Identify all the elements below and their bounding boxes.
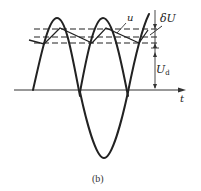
time-axis xyxy=(14,88,186,93)
waveform-diagram: u δU Ud t (b) xyxy=(0,0,201,191)
ud-label: Ud xyxy=(156,63,170,77)
t-axis-label: t xyxy=(180,93,185,104)
figure-caption: (b) xyxy=(92,173,104,185)
delta-u-label: δU xyxy=(160,12,177,25)
u-leader-line xyxy=(117,23,126,33)
u-label: u xyxy=(127,12,133,23)
source-waveform xyxy=(33,14,149,158)
